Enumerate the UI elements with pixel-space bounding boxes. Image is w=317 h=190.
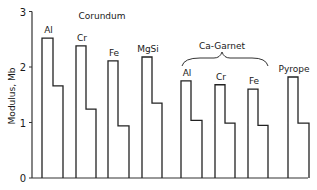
bar-label: Fe bbox=[249, 76, 260, 86]
bar-label: Al bbox=[44, 25, 53, 35]
bar-cr bbox=[215, 85, 235, 178]
bar-label: Pyrope bbox=[278, 64, 309, 74]
bar-label: Cr bbox=[216, 72, 226, 82]
bar-label: MgSi bbox=[137, 44, 159, 54]
y-tick-label: 3 bbox=[20, 7, 26, 18]
y-axis-label: Modulus, Mb bbox=[7, 67, 17, 124]
bar-pyrope bbox=[288, 77, 309, 178]
bar-label: Cr bbox=[77, 33, 87, 43]
bar-cr bbox=[76, 46, 96, 178]
corundum-label: Corundum bbox=[78, 11, 125, 21]
bar-fe bbox=[108, 61, 129, 178]
bar-al bbox=[42, 38, 63, 178]
bar-label: Fe bbox=[109, 48, 120, 58]
y-tick-label: 1 bbox=[20, 118, 26, 129]
ca-garnet-bracket bbox=[182, 52, 268, 66]
ca-garnet-label: Ca-Garnet bbox=[199, 41, 246, 51]
y-tick-label: 2 bbox=[20, 62, 26, 73]
y-tick-label: 0 bbox=[20, 173, 26, 184]
bars: AlCrFeMgSiAlCrFePyrope bbox=[42, 25, 310, 178]
modulus-chart: 0123Modulus, Mb AlCrFeMgSiAlCrFePyrope C… bbox=[0, 0, 317, 190]
bar-mgsi bbox=[142, 57, 162, 178]
bar-al bbox=[181, 81, 202, 178]
bar-fe bbox=[248, 89, 268, 178]
bar-label: Al bbox=[183, 68, 192, 78]
annotations: CorundumCa-Garnet bbox=[78, 11, 268, 66]
